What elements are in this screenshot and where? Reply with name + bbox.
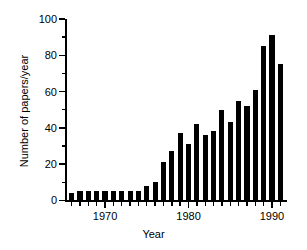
y-tick-minor	[62, 36, 66, 37]
x-tick-minor	[263, 202, 264, 206]
y-tick-minor	[62, 182, 66, 183]
x-tick-minor	[129, 202, 130, 206]
x-tick-minor	[280, 202, 281, 206]
bar	[144, 186, 149, 201]
x-tick-label: 1980	[176, 211, 200, 222]
x-tick-minor	[179, 202, 180, 206]
bar	[228, 122, 233, 200]
bar	[244, 106, 249, 200]
x-tick-major	[271, 202, 272, 208]
y-tick-major	[59, 55, 65, 56]
y-tick-label: 40	[45, 122, 57, 133]
bar	[169, 151, 174, 200]
x-tick-major	[104, 202, 105, 208]
x-tick-minor	[163, 202, 164, 206]
x-tick-minor	[154, 202, 155, 206]
x-tick-minor	[205, 202, 206, 206]
bar	[261, 46, 266, 200]
x-tick-minor	[138, 202, 139, 206]
y-tick-major	[59, 18, 65, 19]
bar	[86, 191, 91, 200]
bar	[211, 131, 216, 200]
bar	[253, 90, 258, 201]
bar	[236, 101, 241, 201]
y-tick-major	[59, 200, 65, 201]
x-tick-minor	[221, 202, 222, 206]
x-tick-minor	[79, 202, 80, 206]
bar	[136, 191, 141, 200]
bar	[119, 191, 124, 200]
x-tick-minor	[238, 202, 239, 206]
y-tick-label: 0	[51, 195, 57, 206]
x-tick-minor	[71, 202, 72, 206]
y-axis-title: Number of papers/year	[18, 31, 30, 191]
x-tick-minor	[246, 202, 247, 206]
x-tick-minor	[171, 202, 172, 206]
y-tick-major	[59, 91, 65, 92]
y-tick-label: 100	[39, 14, 57, 25]
x-tick-minor	[196, 202, 197, 206]
y-tick-label: 80	[45, 50, 57, 61]
x-tick-minor	[255, 202, 256, 206]
bar	[111, 191, 116, 200]
y-tick-minor	[62, 109, 66, 110]
bar	[278, 64, 283, 200]
x-tick-minor	[230, 202, 231, 206]
bar	[203, 135, 208, 200]
x-tick-minor	[121, 202, 122, 206]
bar	[102, 191, 107, 200]
bar	[77, 191, 82, 200]
y-tick-major	[59, 127, 65, 128]
bar	[194, 124, 199, 200]
bar	[161, 162, 166, 200]
plot-area: 020406080100 197019801990	[65, 19, 287, 202]
x-tick-label: 1970	[93, 211, 117, 222]
bar	[153, 182, 158, 200]
x-tick-major	[188, 202, 189, 208]
x-tick-label: 1990	[260, 211, 284, 222]
bar	[269, 35, 274, 200]
x-tick-minor	[96, 202, 97, 206]
y-tick-minor	[62, 73, 66, 74]
bar	[186, 144, 191, 200]
x-tick-minor	[88, 202, 89, 206]
y-axis-line	[65, 19, 67, 202]
y-tick-major	[59, 163, 65, 164]
x-tick-minor	[213, 202, 214, 206]
y-tick-label: 60	[45, 86, 57, 97]
bar	[94, 191, 99, 200]
x-tick-minor	[113, 202, 114, 206]
x-tick-minor	[146, 202, 147, 206]
y-tick-minor	[62, 145, 66, 146]
bar	[178, 133, 183, 200]
bar	[69, 193, 74, 200]
bar	[219, 110, 224, 201]
bar-chart: Number of papers/year 020406080100 19701…	[0, 0, 307, 250]
x-axis-title: Year	[0, 228, 307, 240]
bar	[128, 191, 133, 200]
y-tick-label: 20	[45, 159, 57, 170]
